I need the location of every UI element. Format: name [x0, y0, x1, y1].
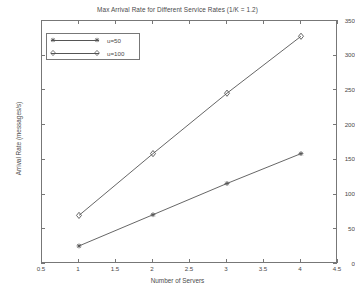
x-tick-label: 4.5 — [322, 265, 352, 272]
series-line — [79, 36, 301, 215]
chart-title: Max Arrival Rate for Different Service R… — [0, 6, 355, 13]
data-point-marker — [77, 244, 82, 249]
data-point-marker — [225, 181, 230, 186]
data-point-marker — [299, 151, 304, 156]
x-tick-label: 3 — [211, 265, 241, 272]
legend-marker-diamond — [47, 53, 103, 54]
legend-entry-1: u=100 — [47, 47, 139, 60]
x-tick-label: 2.5 — [174, 265, 204, 272]
x-axis-title: Number of Servers — [0, 277, 355, 284]
series-u=100 — [77, 33, 304, 218]
data-point-marker — [299, 33, 304, 39]
legend-label-1: u=100 — [107, 49, 124, 58]
legend-marker-star — [47, 40, 103, 41]
x-tick-label: 2 — [137, 265, 167, 272]
legend-entry-0: u=50 — [47, 34, 139, 47]
legend-label-0: u=50 — [107, 36, 121, 45]
x-tick-label: 1 — [63, 265, 93, 272]
series-u=50 — [77, 151, 304, 248]
x-tick-label: 3.5 — [248, 265, 278, 272]
data-point-marker — [151, 212, 156, 217]
chart-figure: Max Arrival Rate for Different Service R… — [0, 0, 355, 296]
x-tick-label: 0.5 — [26, 265, 56, 272]
y-axis-title: Arrival Rate (messages/s) — [15, 69, 22, 209]
chart-legend: u=50 u=100 — [46, 33, 140, 60]
x-tick-label: 1.5 — [100, 265, 130, 272]
series-line — [79, 154, 301, 246]
x-tick-label: 4 — [285, 265, 315, 272]
